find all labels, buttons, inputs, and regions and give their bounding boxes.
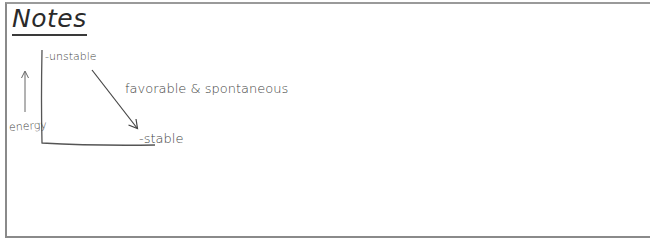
favorable-spontaneous-label: favorable & spontaneous [125,81,288,96]
arrow-up-icon [22,71,29,112]
y-axis-label: energy [9,118,48,134]
arrow-down-right-icon [92,70,138,129]
energy-diagram: energy -unstable -stable favorable & spo… [0,0,651,242]
diagram-axes [42,50,156,145]
unstable-label: -unstable [45,50,97,63]
stable-label: -stable [139,131,183,146]
